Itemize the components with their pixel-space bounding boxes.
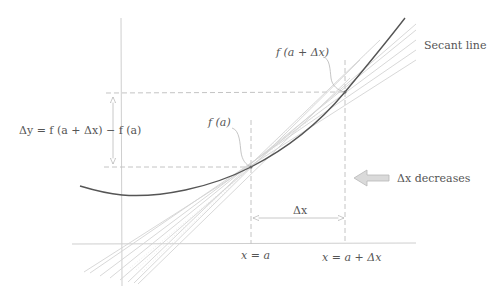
secant-lines [84,24,416,284]
dashed-line-f-a-dx [106,92,345,93]
label-delta-x: Δx [293,205,307,216]
label-secant-line: Secant line [424,40,486,51]
label-delta-y: Δy = f (a + Δx) − f (a) [19,125,141,136]
label-dx-decreases: Δx decreases [397,173,470,184]
guide-lines [104,60,345,244]
label-f-a: f (a) [208,117,231,128]
leader-f-a [232,128,251,167]
label-x-eq-a-plus-dx: x = a + Δx [322,252,381,263]
point-a [250,166,253,169]
x-axis [72,243,416,244]
decreases-arrow-icon [354,170,389,186]
point-a-plus-dx [344,91,347,94]
label-f-a-plus-dx: f (a + Δx) [276,47,329,58]
label-x-eq-a: x = a [241,250,270,261]
y-axis [121,18,122,286]
